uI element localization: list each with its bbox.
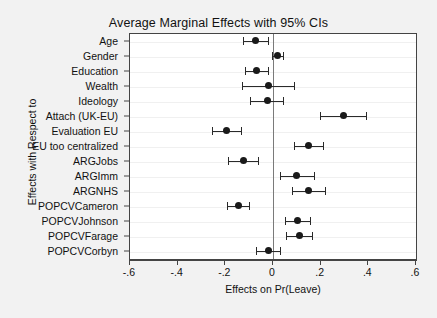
x-axis-tick-label: -.2 xyxy=(218,266,230,278)
ci-cap-high xyxy=(310,217,311,225)
ci-cap-high xyxy=(325,187,326,195)
ci-row xyxy=(130,95,416,109)
x-axis-tick-label: -.6 xyxy=(123,266,135,278)
x-axis-tick-label: .2 xyxy=(315,266,324,278)
ci-cap-low xyxy=(286,232,287,240)
x-axis-tick xyxy=(415,260,416,265)
ci-row xyxy=(130,125,416,139)
estimate-marker xyxy=(274,52,281,59)
estimate-marker xyxy=(252,37,259,44)
ci-row xyxy=(130,245,416,259)
ci-row xyxy=(130,170,416,184)
ci-cap-low xyxy=(243,37,244,45)
chart-figure: Average Marginal Effects with 95% CIs Ef… xyxy=(0,0,437,318)
ci-cap-high xyxy=(268,37,269,45)
estimate-marker xyxy=(240,157,247,164)
plot-area xyxy=(129,33,417,260)
ci-cap-high xyxy=(323,142,324,150)
ci-cap-low xyxy=(212,127,213,135)
ci-row xyxy=(130,35,416,49)
ci-row xyxy=(130,50,416,64)
x-axis-tick xyxy=(367,260,368,265)
ci-cap-high xyxy=(268,67,269,75)
chart-title: Average Marginal Effects with 95% CIs xyxy=(0,16,437,30)
ci-cap-low xyxy=(245,67,246,75)
estimate-marker xyxy=(305,187,312,194)
x-axis-tick xyxy=(224,260,225,265)
ci-cap-high xyxy=(294,82,295,90)
ci-cap-low xyxy=(227,202,228,210)
ci-row xyxy=(130,215,416,229)
estimate-marker xyxy=(305,142,312,149)
ci-cap-high xyxy=(312,232,313,240)
ci-cap-high xyxy=(280,247,281,255)
ci-cap-high xyxy=(258,157,259,165)
x-axis-tick-label: -.4 xyxy=(171,266,183,278)
ci-cap-low xyxy=(294,142,295,150)
estimate-marker xyxy=(235,202,242,209)
estimate-marker xyxy=(265,82,272,89)
estimate-marker xyxy=(294,217,301,224)
ci-cap-high xyxy=(283,97,284,105)
ci-cap-high xyxy=(241,127,242,135)
ci-cap-low xyxy=(242,82,243,90)
x-axis-title: Effects on Pr(Leave) xyxy=(129,283,417,295)
ci-cap-low xyxy=(320,112,321,120)
ci-row xyxy=(130,155,416,169)
y-axis-ticks xyxy=(0,33,130,260)
ci-cap-high xyxy=(249,202,250,210)
x-axis-tick xyxy=(177,260,178,265)
x-axis-tick-label: .4 xyxy=(363,266,372,278)
estimate-marker xyxy=(296,232,303,239)
x-axis-tick-label: .6 xyxy=(411,266,420,278)
ci-cap-low xyxy=(285,217,286,225)
ci-cap-low xyxy=(256,247,257,255)
ci-cap-low xyxy=(272,52,273,60)
ci-cap-high xyxy=(314,172,315,180)
ci-row xyxy=(130,140,416,154)
ci-row xyxy=(130,65,416,79)
ci-row xyxy=(130,80,416,94)
estimate-marker xyxy=(253,67,260,74)
ci-row xyxy=(130,200,416,214)
ci-cap-low xyxy=(228,157,229,165)
ci-row xyxy=(130,185,416,199)
ci-cap-low xyxy=(292,187,293,195)
ci-row xyxy=(130,110,416,124)
x-axis-tick xyxy=(320,260,321,265)
estimate-marker xyxy=(265,247,272,254)
x-axis-tick-label: 0 xyxy=(269,266,275,278)
estimate-marker xyxy=(264,97,271,104)
estimate-marker xyxy=(293,172,300,179)
ci-cap-low xyxy=(250,97,251,105)
estimate-marker xyxy=(223,127,230,134)
estimate-marker xyxy=(340,112,347,119)
ci-cap-low xyxy=(280,172,281,180)
ci-row xyxy=(130,230,416,244)
x-axis-tick xyxy=(272,260,273,265)
ci-cap-high xyxy=(366,112,367,120)
x-axis-tick xyxy=(129,260,130,265)
ci-cap-high xyxy=(283,52,284,60)
